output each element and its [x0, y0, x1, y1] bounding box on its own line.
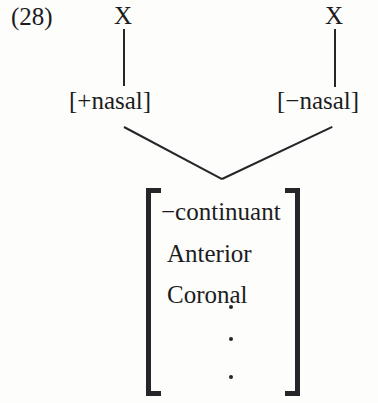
association-line-left-diagonal: [124, 126, 223, 180]
feature-minus-nasal-label: [−nasal]: [277, 88, 359, 113]
matrix-row: −continuant: [161, 199, 281, 224]
vertical-ellipsis-dot: [229, 305, 233, 309]
matrix-rows: −continuant Anterior Coronal: [161, 188, 285, 396]
matrix-row: Coronal: [167, 282, 248, 307]
skeletal-slot-left: X: [114, 3, 132, 28]
feature-matrix: −continuant Anterior Coronal: [146, 188, 300, 396]
figure-canvas: (28) X X [+nasal] [−nasal] −continuant A…: [0, 0, 378, 403]
matrix-row: Anterior: [167, 241, 252, 266]
skeletal-slot-right: X: [325, 3, 343, 28]
matrix-bracket-left-icon: [146, 188, 161, 396]
association-line-left-vertical: [123, 29, 125, 86]
matrix-bracket-right-icon: [285, 188, 300, 396]
feature-plus-nasal-label: [+nasal]: [69, 88, 151, 113]
association-line-right-vertical: [334, 29, 336, 87]
vertical-ellipsis-dot: [229, 375, 233, 379]
vertical-ellipsis-dot: [229, 337, 233, 341]
association-line-right-diagonal: [222, 126, 333, 180]
example-number-label: (28): [11, 4, 53, 29]
